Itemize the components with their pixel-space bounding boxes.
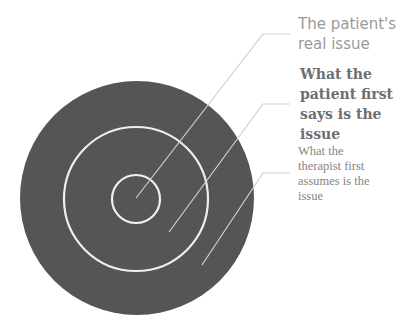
label-line: issue — [298, 189, 418, 204]
diagram-canvas: The patient's real issue What the patien… — [0, 0, 420, 334]
label-line: What the — [300, 64, 418, 84]
label-line: patient first — [300, 84, 418, 104]
label-line: says is the — [300, 104, 418, 124]
label-line: assumes is the — [298, 174, 418, 189]
label-patient-says: What the patient first says is the issue — [300, 64, 418, 144]
label-line: What the — [298, 144, 418, 159]
label-line: issue — [300, 124, 418, 144]
label-real-issue: The patient's real issue — [298, 14, 418, 54]
label-line: real issue — [298, 34, 418, 54]
label-line: The patient's — [298, 14, 418, 34]
outer-circle — [20, 81, 254, 315]
label-therapist-assumes: What the therapist first assumes is the … — [298, 144, 418, 204]
label-line: therapist first — [298, 159, 418, 174]
